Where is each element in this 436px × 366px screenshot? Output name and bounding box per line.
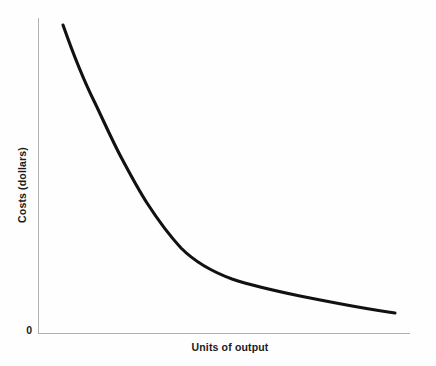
y-axis-label: Costs (dollars) bbox=[0, 110, 44, 260]
x-axis-label: Units of output bbox=[150, 341, 310, 353]
chart-canvas bbox=[0, 0, 436, 366]
cost-curve-figure: Costs (dollars) Units of output 0 bbox=[0, 0, 436, 366]
origin-tick-label: 0 bbox=[18, 324, 32, 336]
cost-curve bbox=[63, 25, 395, 313]
y-axis-label-text: Costs (dollars) bbox=[16, 147, 28, 223]
